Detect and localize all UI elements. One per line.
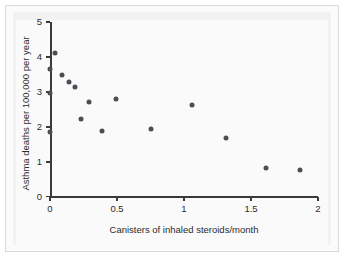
data-point (48, 66, 53, 71)
data-point (86, 100, 91, 105)
data-point (297, 167, 302, 172)
x-tick-1.5 (250, 197, 251, 201)
data-point (190, 102, 195, 107)
x-tick-1 (183, 197, 184, 201)
x-axis-title: Canisters of inhaled steroids/month (50, 224, 318, 235)
data-point (67, 80, 72, 85)
y-axis-title: Asthma deaths per 100,000 per year (20, 19, 31, 209)
data-point (113, 96, 118, 101)
x-tick-label-0.5: 0.5 (103, 203, 131, 214)
data-point (99, 128, 104, 133)
x-tick-2 (317, 197, 318, 201)
x-tick-label-0: 0 (36, 203, 64, 214)
y-tick-1 (46, 161, 50, 162)
data-point (60, 73, 65, 78)
data-point (263, 166, 268, 171)
y-axis-line (50, 22, 52, 198)
scatter-chart: 012345 00.511.52 Canisters of inhaled st… (0, 0, 344, 257)
x-tick-label-2: 2 (304, 203, 332, 214)
data-point (48, 90, 53, 95)
y-tick-4 (46, 56, 50, 57)
x-tick-label-1.5: 1.5 (237, 203, 265, 214)
y-tick-2 (46, 126, 50, 127)
data-point (72, 84, 77, 89)
data-point (48, 130, 53, 135)
data-point (224, 136, 229, 141)
data-point (79, 116, 84, 121)
x-tick-0.5 (116, 197, 117, 201)
data-point (53, 50, 58, 55)
x-tick-label-1: 1 (170, 203, 198, 214)
x-tick-0 (49, 197, 50, 201)
y-tick-5 (46, 21, 50, 22)
figure-frame: 012345 00.511.52 Canisters of inhaled st… (0, 0, 344, 257)
data-point (149, 126, 154, 131)
